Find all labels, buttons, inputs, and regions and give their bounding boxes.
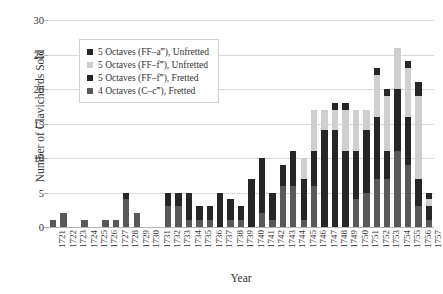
bar-segment-1743-s0[interactable] xyxy=(280,186,286,227)
bar-segment-1751-s1[interactable] xyxy=(363,130,369,192)
bar-segment-1748-s3[interactable] xyxy=(332,103,338,110)
bar-slot-1740[interactable] xyxy=(246,20,256,227)
bar-segment-1737-s1[interactable] xyxy=(217,193,223,228)
bar-slot-1753[interactable] xyxy=(382,20,392,227)
bar-segment-1727-s0[interactable] xyxy=(113,220,119,227)
stacked-bar-1732[interactable] xyxy=(165,193,171,227)
bar-slot-1752[interactable] xyxy=(372,20,382,227)
bar-segment-1740-s1[interactable] xyxy=(248,179,254,227)
bar-segment-1754-s2[interactable] xyxy=(394,48,400,89)
bar-segment-1724-s0[interactable] xyxy=(81,220,87,227)
bar-segment-1738-s0[interactable] xyxy=(227,220,233,227)
bar-segment-1732-s1[interactable] xyxy=(165,193,171,207)
stacked-bar-1756[interactable] xyxy=(415,82,421,227)
bar-segment-1735-s0[interactable] xyxy=(196,220,202,227)
bar-slot-1721[interactable] xyxy=(48,20,58,227)
stacked-bar-1738[interactable] xyxy=(227,199,233,227)
bar-segment-1755-s2[interactable] xyxy=(405,68,411,116)
bar-segment-1741-s3[interactable] xyxy=(259,158,265,165)
stacked-bar-1747[interactable] xyxy=(321,110,327,227)
bar-segment-1744-s1[interactable] xyxy=(290,151,296,186)
bar-segment-1754-s0[interactable] xyxy=(394,151,400,227)
bar-segment-1743-s1[interactable] xyxy=(280,165,286,186)
stacked-bar-1743[interactable] xyxy=(280,165,286,227)
bar-segment-1745-s2[interactable] xyxy=(301,158,307,179)
bar-segment-1750-s1[interactable] xyxy=(353,151,359,199)
bar-segment-1749-s3[interactable] xyxy=(342,103,348,110)
stacked-bar-1754[interactable] xyxy=(394,48,400,227)
bar-segment-1757-s0[interactable] xyxy=(426,220,432,227)
bar-segment-1748-s1[interactable] xyxy=(332,130,338,227)
bar-segment-1755-s1[interactable] xyxy=(405,117,411,165)
bar-segment-1741-s0[interactable] xyxy=(259,213,265,227)
bar-segment-1756-s3[interactable] xyxy=(415,82,421,96)
bar-segment-1750-s2[interactable] xyxy=(353,110,359,151)
stacked-bar-1748[interactable] xyxy=(332,103,338,227)
bar-segment-1733-s1[interactable] xyxy=(175,193,181,207)
stacked-bar-1741[interactable] xyxy=(259,158,265,227)
stacked-bar-1726[interactable] xyxy=(102,220,108,227)
bar-slot-1738[interactable] xyxy=(225,20,235,227)
bar-segment-1746-s0[interactable] xyxy=(311,186,317,227)
stacked-bar-1736[interactable] xyxy=(207,206,213,227)
stacked-bar-1751[interactable] xyxy=(363,110,369,227)
bar-segment-1749-s1[interactable] xyxy=(342,151,348,227)
stacked-bar-1735[interactable] xyxy=(196,206,202,227)
bar-segment-1755-s0[interactable] xyxy=(405,165,411,227)
legend-item-1[interactable]: 5 Octaves (FF–f‴), Unfretted xyxy=(87,58,209,71)
bar-segment-1757-s2[interactable] xyxy=(426,199,432,206)
bar-segment-1753-s1[interactable] xyxy=(384,151,390,179)
bar-slot-1746[interactable] xyxy=(309,20,319,227)
bar-segment-1746-s1[interactable] xyxy=(311,151,317,186)
bar-segment-1756-s1[interactable] xyxy=(415,179,421,207)
bar-segment-1746-s2[interactable] xyxy=(311,110,317,151)
bar-segment-1722-s0[interactable] xyxy=(60,213,66,227)
bar-slot-1754[interactable] xyxy=(392,20,402,227)
bar-segment-1751-s2[interactable] xyxy=(363,110,369,131)
bar-segment-1738-s1[interactable] xyxy=(227,199,233,220)
bar-segment-1726-s0[interactable] xyxy=(102,220,108,227)
bar-segment-1747-s1[interactable] xyxy=(321,130,327,227)
bar-segment-1752-s0[interactable] xyxy=(374,179,380,227)
bar-segment-1736-s1[interactable] xyxy=(207,206,213,220)
bar-slot-1744[interactable] xyxy=(288,20,298,227)
bar-slot-1722[interactable] xyxy=(58,20,68,227)
stacked-bar-1749[interactable] xyxy=(342,103,348,227)
bar-segment-1752-s1[interactable] xyxy=(374,117,380,179)
bar-slot-1749[interactable] xyxy=(340,20,350,227)
bar-segment-1735-s1[interactable] xyxy=(196,206,202,220)
bar-segment-1742-s0[interactable] xyxy=(269,220,275,227)
bar-segment-1751-s0[interactable] xyxy=(363,193,369,228)
bar-slot-1747[interactable] xyxy=(319,20,329,227)
stacked-bar-1729[interactable] xyxy=(134,213,140,227)
bar-segment-1753-s3[interactable] xyxy=(384,89,390,96)
stacked-bar-1744[interactable] xyxy=(290,151,296,227)
bar-segment-1753-s2[interactable] xyxy=(384,96,390,151)
bar-segment-1748-s2[interactable] xyxy=(332,110,338,131)
bar-segment-1752-s3[interactable] xyxy=(374,68,380,75)
bar-segment-1744-s0[interactable] xyxy=(290,186,296,227)
bar-slot-1741[interactable] xyxy=(257,20,267,227)
stacked-bar-1734[interactable] xyxy=(186,193,192,227)
stacked-bar-1728[interactable] xyxy=(123,193,129,227)
bar-slot-1739[interactable] xyxy=(236,20,246,227)
legend-item-2[interactable]: 5 Octaves (FF–f‴), Fretted xyxy=(87,71,209,84)
bar-slot-1751[interactable] xyxy=(361,20,371,227)
bar-segment-1741-s1[interactable] xyxy=(259,165,265,213)
bar-segment-1750-s0[interactable] xyxy=(353,199,359,227)
bar-segment-1721-s0[interactable] xyxy=(50,220,56,227)
bar-segment-1732-s0[interactable] xyxy=(165,206,171,227)
bar-segment-1747-s2[interactable] xyxy=(321,110,327,131)
bar-segment-1728-s1[interactable] xyxy=(123,193,129,200)
bar-segment-1729-s0[interactable] xyxy=(134,213,140,227)
bar-segment-1734-s0[interactable] xyxy=(186,220,192,227)
bar-slot-1742[interactable] xyxy=(267,20,277,227)
bar-segment-1739-s1[interactable] xyxy=(238,206,244,220)
stacked-bar-1746[interactable] xyxy=(311,110,317,227)
bar-segment-1734-s1[interactable] xyxy=(186,193,192,221)
bar-segment-1733-s0[interactable] xyxy=(175,206,181,227)
stacked-bar-1742[interactable] xyxy=(269,193,275,227)
bar-segment-1728-s0[interactable] xyxy=(123,199,129,227)
bar-slot-1750[interactable] xyxy=(351,20,361,227)
stacked-bar-1733[interactable] xyxy=(175,193,181,227)
